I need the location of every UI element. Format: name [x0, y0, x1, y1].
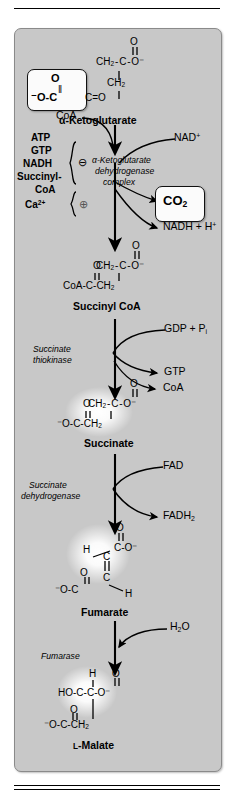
enzyme-fumarase: Fumarase [41, 652, 80, 661]
akg-ch2-sub: 2 [110, 60, 114, 67]
inhibitor-coa: CoA [35, 185, 56, 195]
fumarate-hydrogen-upper: H [83, 545, 90, 555]
plus-circle-icon: ⊕ [79, 199, 88, 210]
akg-boxed-dblbond: ‖ [58, 85, 62, 95]
metabolite-label-succinyl-coa: Succinyl CoA [73, 301, 141, 312]
akg-keto-group: C=O [85, 93, 106, 103]
malate-oxygen-top: O [112, 669, 120, 679]
activator-calcium: Ca2+ [25, 200, 45, 210]
cofactor-gdp-pi: GDP + Pi [164, 323, 207, 335]
fumarate-carboxylate-upper: C-O⁻ [114, 543, 137, 553]
succoa-backbone-bottom: CoA-C-CH2 [63, 281, 115, 292]
fumarate-oxygen-top: O [116, 523, 124, 533]
malate-name-text: -Malate [78, 739, 114, 751]
malate-backbone-bottom: ⁻O-C-CH2 [44, 720, 89, 731]
fumarate-carboxylate-lower: ⁻O-C [55, 585, 78, 595]
enzyme-succinate-thiokinase-line2: thiokinase [33, 356, 72, 365]
pathway-text-layer: O CH2 - C - O⁻ CH2 O ‖ ⁻O-C C=O α-Ketogl… [15, 29, 221, 771]
cofactor-water: H2O [170, 621, 190, 633]
succinate-backbone-bottom: ⁻O-C-CH2 [57, 419, 102, 430]
metabolite-label-l-malate: L-Malate [73, 740, 114, 751]
enzyme-succinate-dehydrogenase-line1: Succinate [29, 481, 67, 490]
figure-root: O CH2 - C - O⁻ CH2 O ‖ ⁻O-C C=O α-Ketogl… [0, 0, 234, 812]
malate-hydrogen: H [89, 669, 96, 679]
enzyme-succinate-dehydrogenase-line2: dehydrogenase [21, 492, 80, 501]
akg-boxed-carboxylate: ⁻O-C [31, 92, 57, 103]
succoa-oxygen-left: O [93, 261, 101, 271]
enzyme-akgdh-line2: dehydrogenase [95, 167, 154, 176]
cofactor-gtp-out: GTP [164, 366, 186, 377]
cofactor-coa-out: CoA [163, 382, 183, 393]
akg-backbone-top: CH2 - C - O⁻ [96, 57, 144, 68]
succoa-oxygen-top: O [132, 241, 140, 251]
succinate-oxygen-top: O [130, 379, 138, 389]
cofactor-fadh2: FADH2 [163, 510, 195, 522]
akg-boxed-oxygen: O [51, 73, 60, 84]
top-rule [14, 8, 220, 9]
akg-ch2-text: CH [96, 56, 110, 67]
cofactor-nad-plus: NAD+ [174, 132, 200, 143]
bottom-rule-upper [14, 785, 220, 786]
metabolite-label-succinate: Succinate [84, 438, 134, 449]
succinate-oxygen-left: O [83, 399, 91, 409]
succinate-backbone-top: CH2 - C - O⁻ [88, 399, 136, 410]
bottom-rule-lower [14, 789, 220, 790]
cofactor-co2: CO2 [163, 194, 187, 208]
metabolite-label-fumarate: Fumarate [81, 607, 128, 618]
cofactor-nadh-h: NADH + H+ [163, 221, 216, 232]
minus-circle-icon: ⊖ [78, 157, 87, 168]
cofactor-fad: FAD [163, 460, 183, 471]
succoa-backbone-top: CH2 - C - O⁻ [96, 261, 144, 272]
cofactor-coa-in-label: CoA [56, 110, 76, 121]
malate-backbone-top: HO-C-C-O⁻ [58, 688, 110, 698]
inhibitor-nadh: NADH [23, 159, 52, 169]
pathway-panel: O CH2 - C - O⁻ CH2 O ‖ ⁻O-C C=O α-Ketogl… [14, 28, 222, 772]
fumarate-alkene-carbon-lower: C [103, 573, 110, 583]
enzyme-akgdh-line3: complex [103, 178, 135, 187]
inhibitor-atp: ATP [31, 133, 50, 143]
akg-ch2-middle: CH2 [107, 78, 125, 89]
fumarate-hydrogen-lower: H [125, 589, 132, 599]
inhibitor-succinyl: Succinyl- [17, 172, 61, 182]
malate-oxygen-lower: O [70, 705, 78, 715]
enzyme-akgdh-line1: α-Ketoglutarate [92, 156, 151, 165]
akg-c1: C [119, 56, 126, 67]
akg-o-minus: O⁻ [131, 56, 144, 67]
fumarate-oxygen-lower: O [80, 568, 88, 578]
inhibitor-gtp: GTP [31, 146, 52, 156]
fumarate-alkene-carbon-upper: C [103, 552, 110, 562]
enzyme-succinate-thiokinase-line1: Succinate [33, 345, 71, 354]
akg-oxygen-top: O [130, 37, 138, 47]
